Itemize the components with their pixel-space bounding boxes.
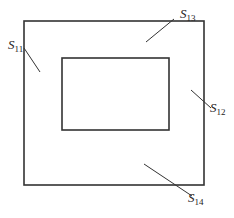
leader-line-s11 [24, 48, 40, 72]
label-s12: S12 [210, 100, 226, 117]
inner-rectangle [62, 58, 169, 130]
label-s14: S14 [188, 190, 204, 207]
outer-rectangle [24, 21, 204, 185]
leader-line-s14 [144, 164, 192, 196]
diagram-canvas: S11 S13 S12 S14 [0, 0, 234, 218]
leader-line-s12 [191, 90, 211, 108]
leader-line-s13 [146, 19, 174, 42]
label-s13: S13 [180, 6, 196, 23]
label-s11: S11 [8, 37, 23, 54]
